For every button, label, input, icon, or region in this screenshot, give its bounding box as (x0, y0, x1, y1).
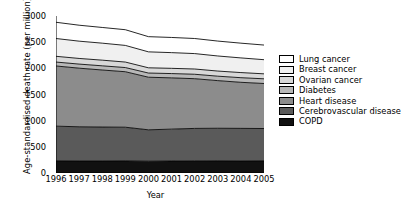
legend-swatch (279, 118, 294, 126)
legend-item: Heart disease (279, 96, 401, 106)
legend-item: COPD (279, 116, 401, 126)
y-axis-tick-labels: 050010001500200025003000 (0, 16, 52, 173)
chart-figure: Age-standardised death rate (per million… (0, 0, 401, 211)
y-tick-label: 1000 (25, 117, 46, 125)
legend-swatch (279, 66, 294, 74)
x-tick-label: 2005 (253, 175, 274, 184)
legend-label: Breast cancer (299, 65, 356, 73)
x-tick-label: 2001 (161, 175, 182, 184)
x-axis-tick-labels: 1996199719981999200020012002200320042005 (56, 175, 264, 187)
x-tick-label: 1998 (92, 175, 113, 184)
chart-legend: Lung cancerBreast cancerOvarian cancerDi… (279, 54, 401, 127)
x-tick-label: 2002 (184, 175, 205, 184)
legend-label: Heart disease (299, 97, 356, 105)
y-tick-label: 3000 (25, 12, 46, 20)
legend-label: Diabetes (299, 86, 336, 94)
x-tick-label: 1999 (115, 175, 136, 184)
legend-label: Lung cancer (299, 55, 350, 63)
legend-item: Lung cancer (279, 54, 401, 64)
stacked-area-svg (56, 16, 264, 173)
legend-label: Ovarian cancer (299, 76, 362, 84)
y-tick-label: 500 (30, 143, 46, 151)
x-tick-label: 2004 (230, 175, 251, 184)
legend-item: Breast cancer (279, 64, 401, 74)
plot-area (56, 16, 264, 173)
legend-swatch (279, 55, 294, 63)
x-tick-label: 2000 (138, 175, 159, 184)
area-band-cerebrovascular-disease (56, 126, 264, 161)
legend-label: Cerebrovascular disease (299, 107, 401, 115)
x-tick-label: 1996 (45, 175, 66, 184)
legend-swatch (279, 86, 294, 94)
legend-label: COPD (299, 117, 323, 125)
legend-item: Diabetes (279, 85, 401, 95)
x-axis-title: Year (48, 190, 263, 200)
y-tick-label: 2500 (25, 38, 46, 46)
y-tick-label: 2000 (25, 64, 46, 72)
area-band-copd (56, 161, 264, 173)
legend-swatch (279, 97, 294, 105)
legend-item: Cerebrovascular disease (279, 106, 401, 116)
y-tick-label: 1500 (25, 90, 46, 98)
x-tick-label: 2003 (207, 175, 228, 184)
legend-item: Ovarian cancer (279, 75, 401, 85)
legend-swatch (279, 107, 294, 115)
x-tick-label: 1997 (69, 175, 90, 184)
legend-swatch (279, 76, 294, 84)
